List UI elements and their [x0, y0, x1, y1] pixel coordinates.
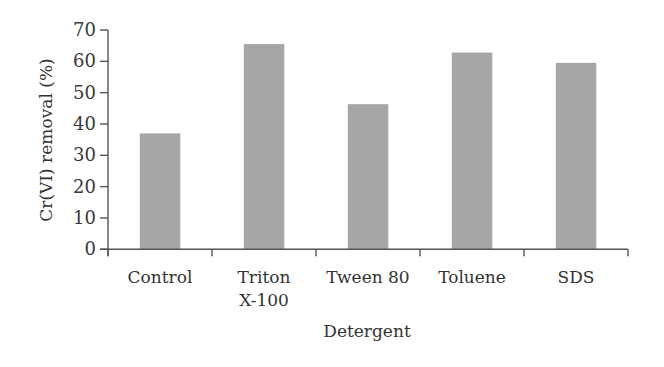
bar-triton-x-100 — [244, 44, 284, 249]
x-category-label: Tween 80 — [326, 267, 409, 287]
y-tick-label: 10 — [73, 207, 96, 228]
x-category-label: X-100 — [239, 290, 289, 310]
y-tick-label: 20 — [73, 176, 96, 197]
bar-toluene — [452, 53, 493, 250]
bars-group — [140, 44, 597, 249]
y-tick-label: 50 — [73, 82, 96, 103]
x-axis-title: Detergent — [323, 321, 411, 341]
y-tick-label: 60 — [73, 50, 96, 71]
x-category-label: Toluene — [438, 267, 506, 287]
bar-sds — [556, 63, 597, 249]
bar-tween-80 — [348, 104, 389, 249]
bar-control — [140, 133, 181, 249]
x-category-label: Triton — [238, 267, 291, 287]
y-axis: 010203040506070 — [73, 19, 108, 259]
y-tick-label: 40 — [73, 113, 96, 134]
x-category-label: Control — [128, 267, 193, 287]
y-tick-label: 0 — [85, 238, 96, 259]
x-axis: ControlTritonX-100Tween 80TolueneSDS — [100, 249, 628, 310]
y-tick-label: 30 — [73, 144, 96, 165]
y-axis-title: Cr(VI) removal (%) — [36, 58, 56, 221]
bar-chart: 010203040506070 ControlTritonX-100Tween … — [0, 0, 664, 367]
x-category-label: SDS — [558, 267, 595, 287]
y-tick-label: 70 — [73, 19, 96, 40]
